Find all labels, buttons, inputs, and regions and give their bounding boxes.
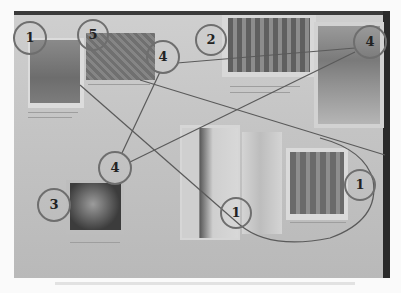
marker-label: 5 [81, 27, 105, 42]
marker-label: 3 [42, 197, 66, 212]
marker-label: 4 [103, 160, 127, 175]
marker-label: 1 [18, 30, 42, 45]
caption-bleed [55, 282, 355, 285]
marker-label: 1 [348, 177, 372, 192]
marker-label: 1 [224, 205, 248, 220]
marker-label: 2 [199, 32, 223, 47]
marker-label: 4 [151, 49, 175, 64]
marker-label: 4 [358, 34, 382, 49]
